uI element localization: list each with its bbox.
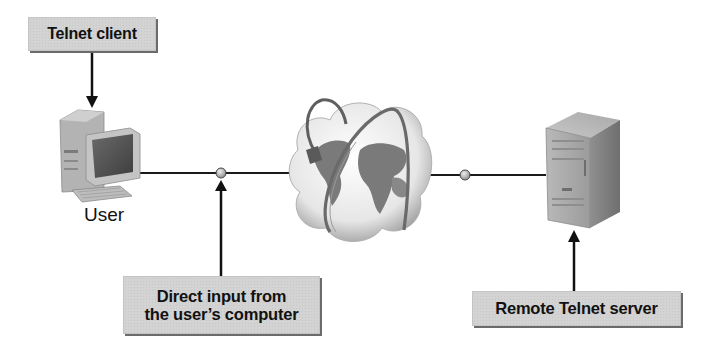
user-label: User: [78, 204, 130, 226]
direct-input-label-line-1: Direct input from: [145, 287, 299, 305]
desktop-computer-icon: [60, 110, 140, 202]
server-side-junction: [460, 170, 470, 180]
arrow-server-label-to-server: [568, 230, 580, 291]
direct-input-label-box: Direct input from the user’s computer: [123, 276, 320, 334]
telnet-diagram: Telnet client User Direct input from the…: [0, 0, 719, 352]
direct-input-label-line-2: the user’s computer: [145, 305, 299, 323]
arrow-direct-input-to-junction: [215, 180, 227, 276]
server-tower-icon: [546, 112, 620, 228]
remote-server-label: Remote Telnet server: [495, 299, 658, 317]
user-side-junction: [216, 168, 226, 178]
globe-cloud-icon: [289, 100, 431, 242]
arrow-client-to-user: [86, 52, 98, 108]
remote-server-label-box: Remote Telnet server: [472, 291, 681, 326]
telnet-client-label-box: Telnet client: [28, 17, 156, 51]
telnet-client-label: Telnet client: [47, 25, 137, 43]
